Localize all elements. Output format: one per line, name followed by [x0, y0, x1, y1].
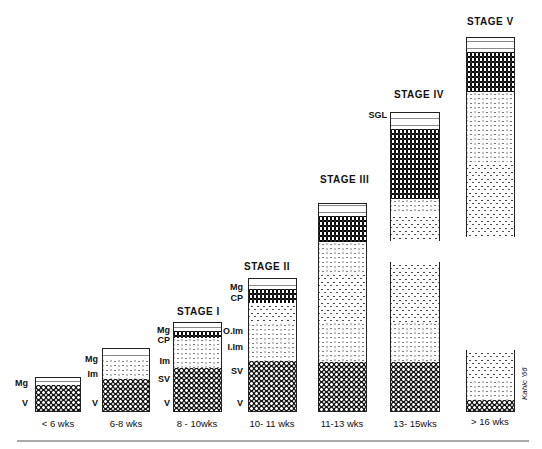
column-6-8wks [102, 348, 150, 412]
column-stage-4-upper [390, 112, 440, 241]
divider-line [17, 440, 529, 442]
column-stage-5-upper [466, 37, 515, 237]
layer-label-v: V [148, 398, 170, 408]
layer-label-inner-im: I.Im [221, 342, 243, 352]
age-label: 8 - 10wks [162, 418, 232, 429]
column-stage-4-lower [390, 262, 440, 412]
age-label: 10- 11 wks [237, 418, 307, 429]
layer-label-v: V [221, 398, 243, 408]
column-stage-5-lower [466, 350, 515, 412]
layer-label-sv: SV [148, 374, 170, 384]
column-stage-1 [173, 322, 222, 412]
layer-label-mg: Mg [6, 378, 28, 388]
age-label: < 6 wks [23, 418, 93, 429]
layer-label-outer-im: O.Im [221, 326, 243, 336]
column-stage-2 [248, 278, 297, 412]
stage-label: STAGE I [177, 306, 220, 317]
column-stage-3 [318, 203, 367, 412]
layer-label-v: V [6, 398, 28, 408]
artist-signature: Kahic '66 [520, 367, 529, 400]
age-label: > 16 wks [455, 416, 525, 427]
layer-label-im: Im [148, 356, 170, 366]
column-under-6wks [35, 377, 81, 412]
layer-label-v: V [76, 398, 98, 408]
stage-label: STAGE II [244, 261, 290, 272]
stage-label: STAGE IV [394, 89, 444, 100]
layer-label-cp: CP [221, 293, 243, 303]
layer-label-sgl: SGL [365, 110, 387, 120]
stage-label: STAGE V [467, 16, 514, 27]
layer-label-sv: SV [221, 366, 243, 376]
stage-label: STAGE III [320, 174, 369, 185]
layer-label-mg: Mg [148, 325, 170, 335]
age-label: 13- 15wks [380, 418, 450, 429]
layer-label-mg: Mg [221, 282, 243, 292]
layer-label-im: Im [76, 369, 98, 379]
age-label: 6-8 wks [91, 418, 161, 429]
layer-label-mg: Mg [76, 354, 98, 364]
layer-label-cp: CP [148, 335, 170, 345]
age-label: 11-13 wks [307, 418, 377, 429]
